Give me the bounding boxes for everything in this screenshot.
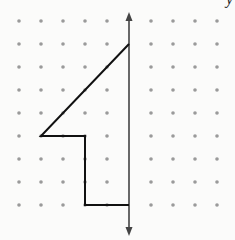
- grid-dot: [215, 157, 219, 161]
- grid-dot: [61, 203, 65, 207]
- grid-dot: [171, 88, 175, 92]
- grid-dot: [149, 157, 153, 161]
- grid-dot: [83, 19, 87, 23]
- grid-dot: [193, 203, 197, 207]
- grid-dot: [193, 111, 197, 115]
- grid-dot: [215, 134, 219, 138]
- reflection-diagram: y: [0, 0, 235, 240]
- grid-dot: [39, 42, 43, 46]
- grid-dot: [171, 111, 175, 115]
- grid-dot: [61, 65, 65, 69]
- grid-dot: [39, 203, 43, 207]
- grid-dot: [193, 88, 197, 92]
- grid-dot: [39, 180, 43, 184]
- grid-dot: [171, 65, 175, 69]
- grid-dot: [39, 157, 43, 161]
- grid-dot: [171, 134, 175, 138]
- grid-dot: [61, 157, 65, 161]
- grid-dot: [83, 65, 87, 69]
- grid-dot: [39, 88, 43, 92]
- grid-dot: [39, 65, 43, 69]
- axis-label: y: [226, 0, 233, 8]
- grid-dot: [193, 134, 197, 138]
- grid-dot: [149, 134, 153, 138]
- grid-dot: [61, 19, 65, 23]
- grid-dot: [193, 65, 197, 69]
- grid-dot: [61, 180, 65, 184]
- grid-dot: [149, 65, 153, 69]
- grid-dot: [193, 157, 197, 161]
- grid-dots: [17, 19, 219, 207]
- grid-dot: [149, 180, 153, 184]
- grid-dot: [215, 19, 219, 23]
- grid-dot: [17, 111, 21, 115]
- grid-dot: [149, 88, 153, 92]
- grid-dot: [17, 88, 21, 92]
- grid-dot: [171, 19, 175, 23]
- grid-dot: [193, 42, 197, 46]
- grid-dot: [171, 180, 175, 184]
- grid-dot: [105, 88, 109, 92]
- grid-dot: [215, 180, 219, 184]
- grid-dot: [17, 65, 21, 69]
- grid-dot: [215, 111, 219, 115]
- grid-dot: [105, 157, 109, 161]
- dot-grid-canvas: [0, 0, 235, 240]
- grid-dot: [149, 111, 153, 115]
- grid-dot: [83, 42, 87, 46]
- grid-dot: [39, 111, 43, 115]
- grid-dot: [39, 19, 43, 23]
- grid-dot: [105, 134, 109, 138]
- grid-dot: [215, 203, 219, 207]
- grid-dot: [215, 65, 219, 69]
- grid-dot: [105, 19, 109, 23]
- grid-dot: [171, 203, 175, 207]
- grid-dot: [105, 42, 109, 46]
- grid-dot: [171, 157, 175, 161]
- grid-dot: [149, 203, 153, 207]
- grid-dot: [149, 42, 153, 46]
- grid-dot: [105, 111, 109, 115]
- grid-dot: [105, 180, 109, 184]
- grid-dot: [17, 42, 21, 46]
- grid-dot: [17, 19, 21, 23]
- grid-dot: [193, 19, 197, 23]
- grid-dot: [61, 42, 65, 46]
- grid-dot: [193, 180, 197, 184]
- grid-dot: [149, 19, 153, 23]
- grid-dot: [83, 111, 87, 115]
- grid-dot: [17, 157, 21, 161]
- grid-dot: [17, 134, 21, 138]
- grid-dot: [171, 42, 175, 46]
- arrow-down-icon: [126, 227, 133, 236]
- arrow-up-icon: [126, 12, 133, 21]
- grid-dot: [215, 88, 219, 92]
- grid-dot: [17, 180, 21, 184]
- grid-dot: [215, 42, 219, 46]
- grid-dot: [17, 203, 21, 207]
- grid-dot: [61, 88, 65, 92]
